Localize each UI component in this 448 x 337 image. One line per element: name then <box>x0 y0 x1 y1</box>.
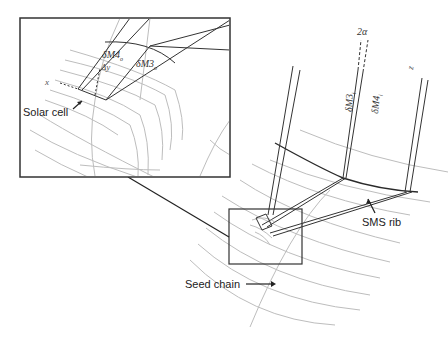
ray-lines <box>262 40 428 236</box>
two-alpha-label: 2α <box>357 26 368 37</box>
sms-optics-diagram: Solar cell SMS rib Seed chain 2α z x Δy … <box>0 0 448 337</box>
dashed-2alpha-left <box>358 40 361 70</box>
x-axis-label: x <box>44 77 49 87</box>
dashed-2alpha-right <box>363 40 368 72</box>
dM3i-label: δM3i <box>343 92 357 112</box>
zoom-region-box <box>229 209 302 264</box>
delta-y-label: Δy <box>100 62 110 72</box>
dM4i-label: δM4i <box>369 93 384 114</box>
zoom-connector-line <box>128 177 229 237</box>
seed-chain-label: Seed chain <box>185 278 240 290</box>
inset-zoom-view <box>20 18 230 180</box>
z-axis-label: z <box>405 65 416 72</box>
sms-rib-label: SMS rib <box>362 216 401 228</box>
solar-cell-label: Solar cell <box>23 106 68 118</box>
